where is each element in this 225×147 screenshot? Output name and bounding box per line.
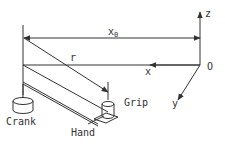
grip-label: Grip <box>124 98 148 108</box>
y-axis-label: y <box>172 99 178 109</box>
crank-arm-line-1 <box>23 65 108 112</box>
x0-label: x0 <box>108 27 118 37</box>
crank-cylinder <box>13 98 33 114</box>
y-axis-arrow <box>178 65 200 100</box>
x0-subscript: 0 <box>114 31 118 39</box>
r-label: r <box>70 53 76 63</box>
z-axis-label: z <box>205 9 211 19</box>
x-axis-label: x <box>145 67 151 77</box>
hand-label: Hand <box>71 128 95 138</box>
crank-label: Crank <box>6 117 36 127</box>
origin-label: O <box>207 62 213 72</box>
